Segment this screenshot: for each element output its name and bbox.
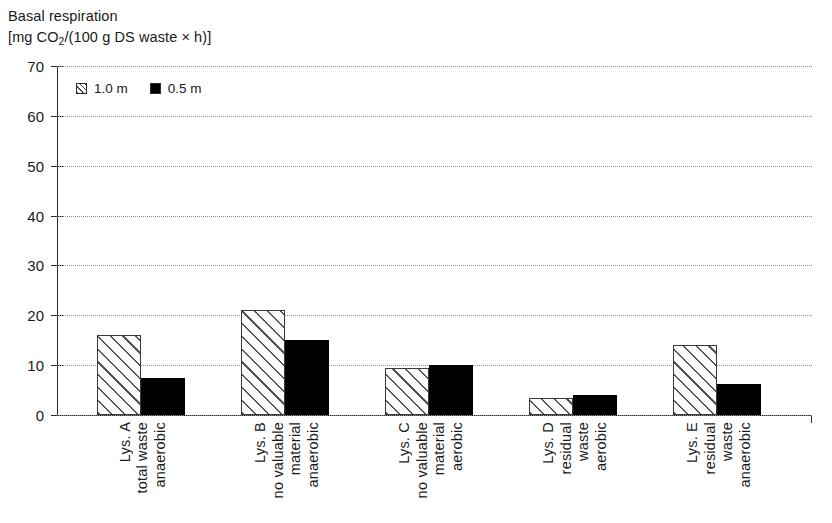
category-label-line: Lys. E <box>683 422 701 463</box>
bar <box>673 345 717 415</box>
bar <box>429 365 473 415</box>
category-label-line: residual <box>557 422 575 474</box>
category-label-line: Lys. B <box>251 422 269 463</box>
chart-legend: 1.0 m 0.5 m <box>76 81 202 96</box>
category-label-line: aerobic <box>448 422 466 471</box>
plot-area <box>57 66 812 415</box>
gridline <box>57 415 812 416</box>
gridline <box>57 116 812 117</box>
category-label-line: no valuable <box>269 422 287 498</box>
y-axis-tick-label: 20 <box>4 307 44 324</box>
category-label-line: no valuable <box>413 422 431 498</box>
category-label-line: anaerobic <box>736 422 754 488</box>
legend-label-2: 0.5 m <box>168 81 202 96</box>
category-label-line: waste <box>718 422 736 461</box>
category-label: Lys. Atotal wasteanaerobic <box>116 422 169 442</box>
x-axis-end-tick <box>811 415 812 423</box>
y-axis-tick-label: 0 <box>4 407 44 424</box>
y-axis-tick-label: 60 <box>4 107 44 124</box>
category-label: Lys. Dresidualwasteaerobic <box>539 422 609 442</box>
bar <box>285 340 329 415</box>
gridline <box>57 315 812 316</box>
y-axis-tick-label: 40 <box>4 207 44 224</box>
category-label-line: aerobic <box>592 422 610 471</box>
bar <box>241 310 285 415</box>
legend-swatch-solid-icon <box>150 83 161 94</box>
category-label-line: Lys. D <box>539 422 557 464</box>
bar <box>573 395 617 415</box>
gridline <box>57 216 812 217</box>
category-label: Lys. Eresidualwasteanaerobic <box>683 422 753 442</box>
category-label-line: material <box>430 422 448 475</box>
category-label: Lys. Bno valuablematerialanaerobic <box>251 422 321 442</box>
category-label-line: anaerobic <box>304 422 322 488</box>
y-axis-tick-labels: 010203040506070 <box>0 0 44 523</box>
category-label-line: anaerobic <box>151 422 169 488</box>
bar <box>97 335 141 415</box>
legend-swatch-hatched-icon <box>76 83 87 94</box>
category-label-line: waste <box>574 422 592 461</box>
bar <box>529 398 573 415</box>
category-label-line: material <box>286 422 304 475</box>
category-label-line: Lys. C <box>395 422 413 464</box>
legend-entry-1: 1.0 m <box>76 81 128 96</box>
chart-figure: Basal respiration [mg CO2/(100 g DS wast… <box>0 0 832 523</box>
gridline <box>57 166 812 167</box>
category-label-line: residual <box>701 422 719 474</box>
bar <box>141 378 185 415</box>
y-axis-tick-label: 30 <box>4 257 44 274</box>
y-axis-tick-label: 10 <box>4 357 44 374</box>
legend-entry-2: 0.5 m <box>150 81 202 96</box>
bar <box>717 384 761 415</box>
bar <box>385 368 429 415</box>
gridline <box>57 265 812 266</box>
category-label: Lys. Cno valuablematerialaerobic <box>395 422 465 442</box>
legend-label-1: 1.0 m <box>94 81 128 96</box>
chart-units-suffix: /(100 g DS waste × h)] <box>64 29 211 45</box>
gridline <box>57 66 812 67</box>
y-axis-tick-label: 50 <box>4 157 44 174</box>
category-label-line: Lys. A <box>116 422 134 462</box>
y-axis-tick-label: 70 <box>4 58 44 75</box>
category-label-line: total waste <box>133 422 151 494</box>
